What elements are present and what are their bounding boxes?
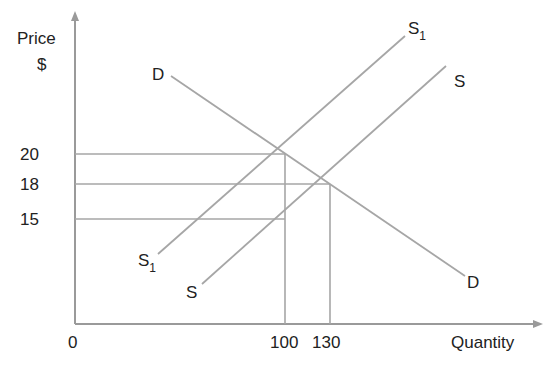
s1-label-bottom: S1 [138, 251, 156, 275]
y-tick-20: 20 [20, 145, 39, 164]
demand-label-bottom: D [467, 273, 479, 292]
y-tick-15: 15 [20, 210, 39, 229]
y-tick-18: 18 [20, 175, 39, 194]
s-label-bottom: S [186, 283, 197, 302]
x-tick-100: 100 [270, 333, 298, 352]
s-label-top: S [454, 72, 465, 91]
x-tick-130: 130 [312, 333, 340, 352]
origin-label: 0 [68, 333, 77, 352]
supply-curve-s [202, 66, 446, 284]
x-axis-label: Quantity [451, 333, 515, 352]
demand-curve [171, 76, 465, 276]
y-axis-label: Price [17, 29, 56, 48]
reference-lines [75, 154, 330, 324]
supply-curve-s1 [158, 36, 405, 254]
supply-demand-chart: Price $ Quantity 0 20 18 15 100 130 D D … [0, 0, 555, 368]
y-axis-unit: $ [37, 55, 47, 74]
s1-label-top: S1 [408, 19, 426, 43]
demand-label-top: D [152, 65, 164, 84]
